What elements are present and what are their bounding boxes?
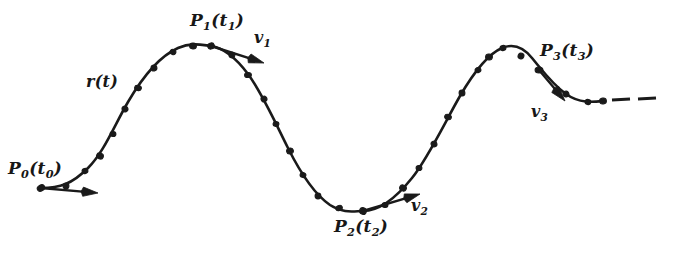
label-vector-v2: v2 bbox=[411, 198, 428, 217]
vector-arrowhead-v1 bbox=[248, 54, 264, 63]
sample-point-markers bbox=[36, 42, 607, 215]
label-r-of-t: r(t) bbox=[86, 74, 118, 90]
label-p0-param-index: 0 bbox=[46, 167, 54, 181]
tangent-vector-v3 bbox=[539, 70, 565, 101]
label-p0-open-paren: ( bbox=[29, 158, 37, 178]
label-point-p3: P3(t3) bbox=[540, 42, 594, 63]
sample-point-dot bbox=[459, 90, 465, 96]
label-p1-letter: P bbox=[190, 10, 203, 30]
sample-point-dot bbox=[315, 193, 321, 199]
label-r-open-paren: ( bbox=[95, 72, 103, 91]
tangent-vector-v0 bbox=[41, 187, 98, 196]
sample-point-dot bbox=[273, 121, 279, 127]
label-p1-open-paren: ( bbox=[211, 10, 219, 30]
label-r-name: r bbox=[86, 72, 95, 91]
sample-point-dot bbox=[599, 98, 607, 105]
label-p1-param: t bbox=[220, 10, 228, 30]
label-p1-index: 1 bbox=[203, 19, 211, 33]
label-p0-close-paren: ) bbox=[54, 158, 62, 178]
label-point-p0: P0(t0) bbox=[8, 160, 62, 181]
label-v1-index: 1 bbox=[264, 37, 272, 49]
vector-shaft-v2 bbox=[363, 197, 410, 211]
sample-point-dot bbox=[110, 131, 116, 136]
label-r-close-paren: ) bbox=[110, 72, 118, 91]
sample-point-dot bbox=[485, 54, 493, 61]
label-p0-param: t bbox=[38, 158, 46, 178]
sample-point-dot bbox=[500, 45, 507, 51]
label-p2-letter: P bbox=[334, 216, 347, 236]
label-p2-param-index: 2 bbox=[372, 225, 380, 239]
label-p2-open-paren: ( bbox=[355, 216, 363, 236]
label-p2-index: 2 bbox=[347, 225, 355, 239]
label-p3-letter: P bbox=[540, 40, 553, 60]
label-p3-param: t bbox=[570, 40, 578, 60]
sample-point-dot bbox=[63, 183, 69, 189]
sample-point-dot bbox=[134, 85, 142, 91]
sample-point-dot bbox=[517, 52, 525, 60]
label-p1-param-index: 1 bbox=[228, 19, 236, 33]
label-p0-letter: P bbox=[8, 158, 21, 178]
sample-point-dot bbox=[244, 72, 251, 78]
label-point-p2: P2(t2) bbox=[334, 218, 388, 239]
curve-path bbox=[41, 44, 603, 211]
label-v3-letter: v bbox=[531, 102, 541, 121]
curve-dash-segment-0 bbox=[612, 99, 630, 100]
label-v2-letter: v bbox=[411, 196, 421, 215]
curve-dashed-continuation bbox=[612, 98, 656, 100]
sample-point-dot bbox=[585, 99, 592, 105]
label-v1-letter: v bbox=[254, 28, 264, 47]
sample-point-dot bbox=[82, 168, 89, 174]
label-p3-index: 3 bbox=[553, 49, 561, 63]
label-v2-index: 2 bbox=[421, 205, 429, 217]
label-p0-index: 0 bbox=[21, 167, 29, 181]
label-p3-open-paren: ( bbox=[561, 40, 569, 60]
sample-point-dot bbox=[416, 165, 422, 170]
label-point-p1: P1(t1) bbox=[190, 12, 244, 33]
label-p1-close-paren: ) bbox=[236, 10, 244, 30]
curve-dash-segment-1 bbox=[638, 98, 656, 99]
sample-point-dot bbox=[151, 65, 158, 72]
label-v3-index: 3 bbox=[541, 111, 549, 123]
sample-point-dot bbox=[299, 172, 306, 179]
label-vector-v3: v3 bbox=[531, 104, 548, 123]
sample-point-dot bbox=[189, 43, 196, 49]
label-p3-param-index: 3 bbox=[578, 49, 586, 63]
parametric-curve-figure: r(t) P0(t0) P1(t1) P2(t2) P3(t3) v1 v2 v… bbox=[0, 0, 673, 263]
tangent-vectors bbox=[41, 46, 565, 211]
label-p3-close-paren: ) bbox=[586, 40, 594, 60]
label-p2-param: t bbox=[364, 216, 372, 236]
label-vector-v1: v1 bbox=[254, 30, 271, 49]
vector-arrowhead-v0 bbox=[81, 187, 98, 196]
label-p2-close-paren: ) bbox=[380, 216, 388, 236]
